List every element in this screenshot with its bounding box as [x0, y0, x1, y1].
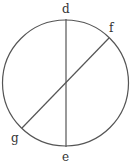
label-d: d: [62, 2, 70, 16]
label-g: g: [11, 131, 19, 145]
label-e: e: [62, 150, 69, 164]
label-f: f: [109, 21, 115, 35]
circle-diagram: d f g e: [0, 0, 131, 166]
